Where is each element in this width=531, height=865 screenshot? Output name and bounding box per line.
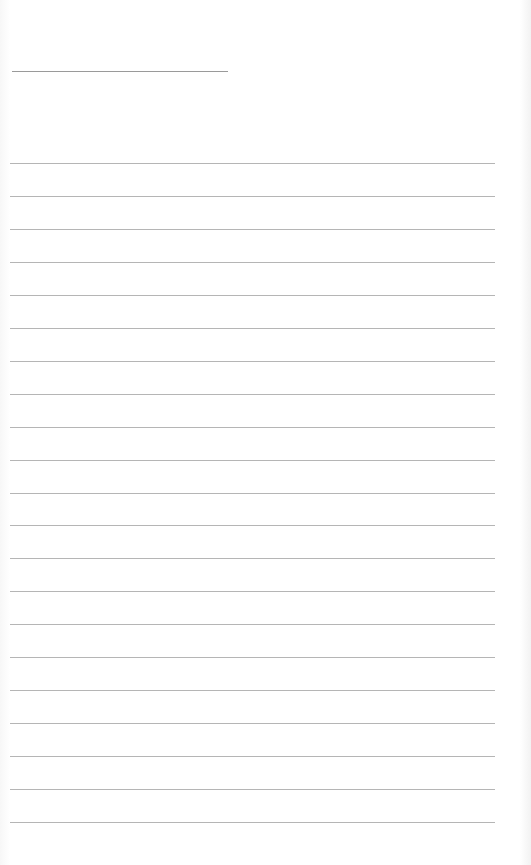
ruled-line bbox=[10, 196, 495, 197]
ruled-line bbox=[10, 394, 495, 395]
ruled-line bbox=[10, 723, 495, 724]
lined-paper-page bbox=[0, 0, 531, 865]
ruled-line bbox=[10, 163, 495, 164]
ruled-line bbox=[10, 229, 495, 230]
ruled-line bbox=[10, 558, 495, 559]
ruled-line bbox=[10, 756, 495, 757]
ruled-line bbox=[10, 328, 495, 329]
ruled-line bbox=[10, 361, 495, 362]
ruled-line bbox=[10, 427, 495, 428]
ruled-line bbox=[10, 591, 495, 592]
ruled-line bbox=[10, 657, 495, 658]
ruled-line bbox=[10, 822, 495, 823]
ruled-line bbox=[10, 460, 495, 461]
ruled-line bbox=[10, 789, 495, 790]
title-field bbox=[12, 50, 228, 68]
title-underline bbox=[12, 71, 228, 72]
ruled-line bbox=[10, 262, 495, 263]
ruled-line bbox=[10, 525, 495, 526]
ruled-line bbox=[10, 295, 495, 296]
ruled-line bbox=[10, 690, 495, 691]
ruled-line bbox=[10, 624, 495, 625]
ruled-line bbox=[10, 493, 495, 494]
